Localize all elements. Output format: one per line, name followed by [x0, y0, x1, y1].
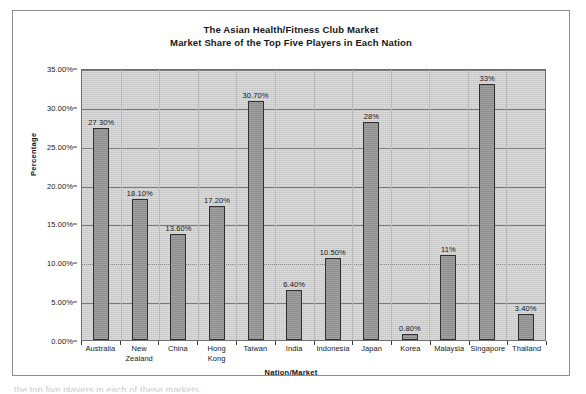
bar[interactable]: 18.10%	[132, 199, 148, 340]
bar-value-label: 10.50%	[320, 248, 346, 257]
bar[interactable]: 33%	[479, 84, 495, 340]
bar-value-label: 17.20%	[204, 196, 230, 205]
y-axis-tick-label: 25.00%	[47, 142, 73, 151]
y-axis-tickmark	[73, 69, 77, 70]
bar-slot: 18.10%	[121, 70, 160, 340]
y-axis-tickmark	[73, 224, 77, 225]
bar[interactable]: 6.40%	[286, 290, 302, 340]
bar[interactable]: 27 30%	[93, 128, 109, 340]
bar-slot: 30.70%	[236, 70, 275, 340]
bar-slot: 33%	[468, 70, 507, 340]
y-axis-tickmark	[73, 107, 77, 108]
bar[interactable]: 30.70%	[248, 101, 264, 340]
bar[interactable]: 10.50%	[325, 258, 341, 340]
x-axis-tick-label: Singapore	[469, 344, 508, 363]
x-axis-tick-label: Taiwan	[236, 344, 275, 363]
bar-slot: 10.50%	[313, 70, 352, 340]
x-axis-tick-label: India	[275, 344, 314, 363]
x-axis-tick-label-line: Japan	[352, 344, 391, 354]
x-axis-tick-label-line: Korea	[391, 344, 430, 354]
bar-slot: 6.40%	[275, 70, 314, 340]
y-axis-tickmark	[73, 302, 77, 303]
bar[interactable]: 11%	[440, 255, 456, 340]
bar[interactable]: 17.20%	[209, 206, 225, 340]
bar-value-label: 13.60%	[165, 224, 191, 233]
x-axis-tick-label-line: Zealand	[120, 354, 159, 364]
bar-value-label: 6.40%	[283, 280, 305, 289]
bar-value-label: 33%	[479, 74, 494, 83]
x-axis-tick-label: Malaysia	[430, 344, 469, 363]
bar-value-label: 0.80%	[399, 324, 421, 333]
bar[interactable]: 28%	[363, 122, 379, 340]
bar-series: 27 30%18.10%13.60%17.20%30.70%6.40%10.50…	[82, 70, 545, 340]
x-axis-tick-label: China	[159, 344, 198, 363]
x-axis-tick-label: Indonesia	[314, 344, 353, 363]
y-axis-tickmark	[73, 146, 77, 147]
x-axis-tick-label-line: India	[275, 344, 314, 354]
bar-slot: 28%	[352, 70, 391, 340]
bar[interactable]: 0.80%	[402, 334, 418, 340]
x-axis-tick-label-line: Taiwan	[236, 344, 275, 354]
bar[interactable]: 3.40%	[518, 314, 534, 340]
x-axis-tick-label: HongKong	[197, 344, 236, 363]
x-axis-tick-label: Thailand	[507, 344, 546, 363]
x-axis-tickmark	[546, 341, 547, 345]
x-axis-title: Nation/Market	[13, 368, 569, 377]
x-axis-tick-label-line: Malaysia	[430, 344, 469, 354]
bar-value-label: 28%	[364, 112, 379, 121]
y-axis-tick-label: 20.00%	[47, 181, 73, 190]
y-axis-tickmark	[73, 341, 77, 342]
y-axis-tick-labels: 35.00%30.00%25.00%20.00%15.00%10.00%5.00…	[33, 69, 77, 341]
x-axis-tick-label: Australia	[81, 344, 120, 363]
bar-value-label: 11%	[441, 245, 456, 254]
bar-value-label: 18.10%	[127, 189, 153, 198]
bar-value-label: 3.40%	[515, 304, 537, 313]
y-axis-tickmark	[73, 185, 77, 186]
bar-value-label: 27 30%	[88, 118, 114, 127]
x-axis-tick-labels: AustraliaNewZealandChinaHongKongTaiwanIn…	[81, 344, 546, 363]
y-axis-tick-label: 10.00%	[47, 259, 73, 268]
x-axis-tick-label-line: New	[120, 344, 159, 354]
bar-slot: 0.80%	[391, 70, 430, 340]
x-axis-tick-label-line: Australia	[81, 344, 120, 354]
bar-slot: 27 30%	[82, 70, 121, 340]
x-axis-tick-label: Korea	[391, 344, 430, 363]
plot-area: 27 30%18.10%13.60%17.20%30.70%6.40%10.50…	[81, 69, 546, 341]
bar-slot: 11%	[429, 70, 468, 340]
chart-title: The Asian Health/Fitness Club Market Mar…	[13, 23, 569, 49]
chart-title-line2: Market Share of the Top Five Players in …	[13, 36, 569, 49]
x-axis-tick-label-line: Singapore	[469, 344, 508, 354]
x-axis-tick-label: NewZealand	[120, 344, 159, 363]
x-axis-tick-label-line: Hong	[197, 344, 236, 354]
y-axis-tick-label: 30.00%	[47, 103, 73, 112]
y-axis-tick-label: 15.00%	[47, 220, 73, 229]
chart-title-line1: The Asian Health/Fitness Club Market	[203, 24, 378, 35]
caption-fragment: the top five players in each of these ma…	[14, 385, 570, 392]
y-axis-tick-label: 0.00%	[51, 337, 73, 346]
bar-value-label: 30.70%	[243, 91, 269, 100]
y-axis-tick-label: 5.00%	[51, 298, 73, 307]
x-axis-tick-label-line: Thailand	[507, 344, 546, 354]
chart-frame: The Asian Health/Fitness Club Market Mar…	[12, 10, 570, 376]
x-axis-tick-label: Japan	[352, 344, 391, 363]
bar-slot: 13.60%	[159, 70, 198, 340]
y-axis-tickmark	[73, 263, 77, 264]
x-axis-tick-label-line: Kong	[197, 354, 236, 364]
bar[interactable]: 13.60%	[170, 234, 186, 340]
bar-slot: 17.20%	[198, 70, 237, 340]
bar-slot: 3.40%	[506, 70, 545, 340]
x-axis-tick-label-line: China	[159, 344, 198, 354]
y-axis-tick-label: 35.00%	[47, 65, 73, 74]
x-axis-tick-label-line: Indonesia	[314, 344, 353, 354]
